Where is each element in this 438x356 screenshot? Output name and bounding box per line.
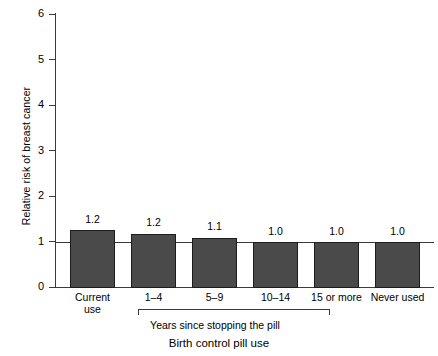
bar-10-14 [253, 242, 298, 288]
group-bracket-right-tick [329, 309, 330, 315]
y-tick-label-6: 6 [16, 8, 44, 19]
y-axis-line [55, 13, 56, 288]
x-tick-label-15-or-more: 15 or more [302, 292, 372, 304]
bar-current-use [70, 230, 115, 288]
bar-value-never-used: 1.0 [368, 226, 428, 237]
group-bracket-label-text: Years since stopping the pill [150, 319, 280, 331]
group-bracket-label: Years since stopping the pill [0, 319, 438, 331]
y-tick-5 [49, 59, 55, 60]
y-tick-label-5: 5 [16, 54, 44, 65]
bar-15-or-more [314, 242, 359, 288]
bar-value-5-9: 1.1 [185, 221, 245, 232]
bar-value-current-use: 1.2 [63, 214, 123, 225]
x-tick-label-10-14: 10–14 [241, 292, 311, 304]
y-tick-label-1: 1 [16, 236, 44, 247]
bar-chart: Relative risk of breast cancer 6 5 4 3 2… [0, 0, 438, 356]
bar-value-10-14: 1.0 [246, 226, 306, 237]
bar-value-15-or-more: 1.0 [307, 226, 367, 237]
bar-never-used [375, 242, 420, 288]
x-tick-label-5-9: 5–9 [180, 292, 250, 304]
y-tick-label-0: 0 [16, 281, 44, 292]
group-bracket-left-tick [138, 309, 139, 315]
x-axis-title: Birth control pill use [0, 337, 438, 349]
bar-value-1-4: 1.2 [124, 217, 184, 228]
x-tick-label-1-4: 1–4 [119, 292, 189, 304]
y-tick-label-3: 3 [16, 145, 44, 156]
x-tick-label-current-use: Current use [58, 292, 128, 315]
y-axis-title: Relative risk of breast cancer [20, 46, 32, 266]
y-tick-label-2: 2 [16, 190, 44, 201]
bar-1-4 [131, 234, 176, 289]
x-tick-label-never-used: Never used [363, 292, 433, 304]
y-tick-3 [49, 150, 55, 151]
y-tick-6 [49, 14, 55, 15]
group-bracket-line [138, 309, 330, 310]
y-tick-4 [49, 105, 55, 106]
bar-5-9 [192, 238, 237, 289]
y-tick-label-4: 4 [16, 99, 44, 110]
y-tick-2 [49, 196, 55, 197]
